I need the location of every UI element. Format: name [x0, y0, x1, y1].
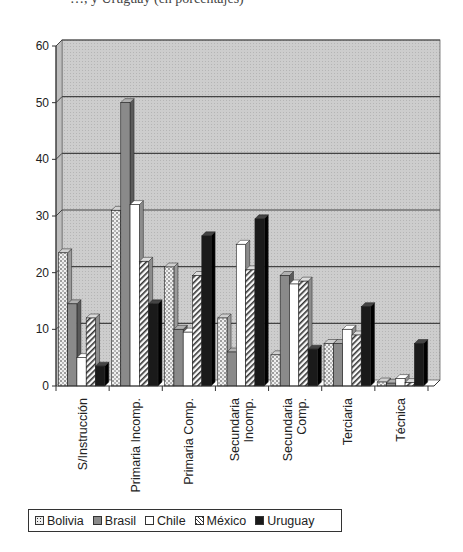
- svg-text:Incomp.: Incomp.: [242, 398, 256, 442]
- legend-label: Brasil: [105, 514, 136, 528]
- x-category-label: Técnica: [394, 398, 408, 442]
- y-tick-label: 10: [36, 322, 50, 336]
- y-axis: 0102030405060: [36, 39, 56, 393]
- legend-label: México: [207, 514, 247, 528]
- y-tick-label: 40: [36, 152, 50, 166]
- legend-swatch-black: [255, 516, 264, 525]
- legend-swatch-white: [145, 516, 154, 525]
- legend-item-brasil: Brasil: [93, 514, 136, 528]
- legend-label: Bolivia: [47, 514, 84, 528]
- bar-uruguay: [202, 232, 215, 386]
- legend-label: Chile: [157, 514, 186, 528]
- bar-uruguay: [414, 340, 427, 387]
- legend-swatch-dotted: [35, 516, 44, 525]
- legend-swatch-gray: [93, 516, 102, 525]
- svg-text:Comp.: Comp.: [295, 398, 309, 435]
- y-tick-label: 0: [42, 379, 49, 393]
- x-axis: S/InstrucciónPrimaria Incomp.Primaria Co…: [56, 380, 440, 492]
- bar-uruguay: [96, 362, 109, 386]
- svg-text:S/Instrucción: S/Instrucción: [76, 398, 90, 470]
- legend-item-mexico: México: [195, 514, 247, 528]
- x-category-label: Primaria Incomp.: [129, 398, 143, 492]
- svg-text:Secundaria: Secundaria: [228, 398, 242, 461]
- svg-text:Secundaria: Secundaria: [281, 398, 295, 461]
- bar-uruguay: [149, 300, 162, 386]
- svg-text:Terciaria: Terciaria: [341, 398, 355, 445]
- y-tick-label: 20: [36, 266, 50, 280]
- bar-uruguay: [361, 303, 374, 386]
- y-tick-label: 60: [36, 39, 50, 53]
- legend-item-chile: Chile: [145, 514, 186, 528]
- bar-chart: 0102030405060 S/InstrucciónPrimaria Inco…: [0, 0, 463, 500]
- bar-uruguay: [255, 215, 268, 386]
- x-category-label: S/Instrucción: [76, 398, 90, 470]
- chart-legend: BoliviaBrasilChileMéxicoUruguay: [28, 509, 342, 532]
- legend-swatch-hatched: [195, 516, 204, 525]
- svg-text:Primaria Incomp.: Primaria Incomp.: [129, 398, 143, 492]
- legend-item-uruguay: Uruguay: [255, 514, 314, 528]
- x-category-label: SecundariaIncomp.: [228, 398, 256, 461]
- y-tick-label: 50: [36, 96, 50, 110]
- x-category-label: Primaria Comp.: [182, 398, 196, 485]
- x-category-label: Terciaria: [341, 398, 355, 445]
- legend-label: Uruguay: [267, 514, 314, 528]
- svg-text:Primaria Comp.: Primaria Comp.: [182, 398, 196, 485]
- svg-text:Técnica: Técnica: [394, 398, 408, 442]
- legend-item-bolivia: Bolivia: [35, 514, 84, 528]
- y-tick-label: 30: [36, 209, 50, 223]
- bar-uruguay: [308, 345, 321, 386]
- x-category-label: SecundariaComp.: [281, 398, 309, 461]
